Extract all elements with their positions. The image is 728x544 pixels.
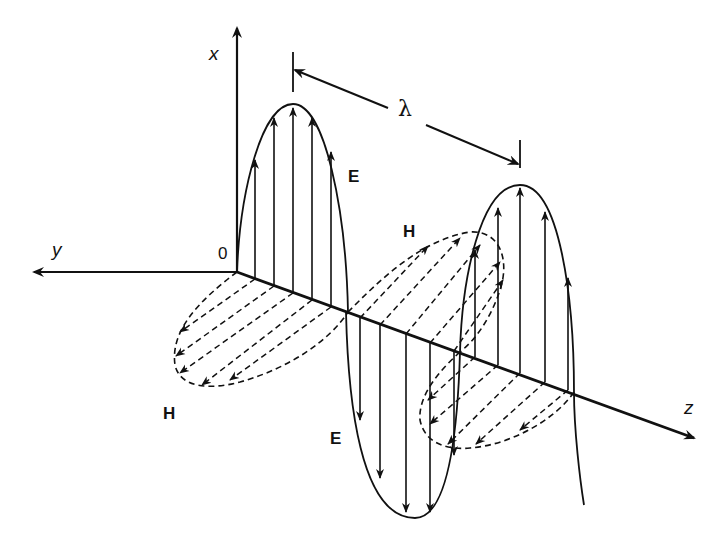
magnetic-field-label-2: H [403, 223, 415, 240]
z-axis [237, 272, 694, 438]
z-axis-label: z [684, 398, 694, 417]
em-wave-diagram [0, 0, 728, 544]
origin-label: 0 [218, 245, 227, 262]
y-axis-label: y [52, 240, 62, 259]
e-field-lobe-3 [460, 185, 584, 505]
electric-field-label-2: E [330, 430, 341, 447]
electric-field-label-1: E [348, 168, 359, 185]
e-field-lobe-2 [346, 312, 460, 518]
magnetic-field-label-1: H [163, 405, 175, 422]
x-axis-label: x [209, 44, 219, 63]
wavelength-label: λ [398, 98, 412, 120]
h-field-lobe-1 [174, 272, 348, 386]
h-field-lobe-3 [420, 352, 574, 448]
h-field-lobe-2 [348, 232, 504, 352]
